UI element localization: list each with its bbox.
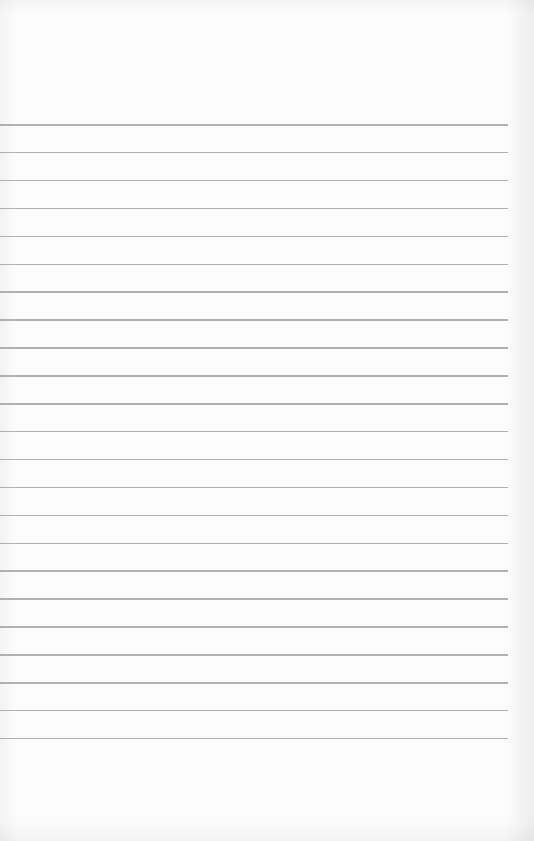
ruled-line bbox=[0, 264, 508, 266]
ruled-line bbox=[0, 431, 508, 433]
ruled-line bbox=[0, 403, 508, 405]
ruled-line bbox=[0, 236, 508, 238]
ruled-line bbox=[0, 710, 508, 712]
ruled-line bbox=[0, 459, 508, 461]
ruled-line bbox=[0, 598, 508, 600]
ruled-line bbox=[0, 682, 508, 684]
ruled-line bbox=[0, 319, 508, 321]
ruled-line bbox=[0, 570, 508, 572]
ruled-line bbox=[0, 543, 508, 545]
ruled-line bbox=[0, 375, 508, 377]
ruled-line bbox=[0, 626, 508, 628]
ruled-line bbox=[0, 487, 508, 489]
ruled-line bbox=[0, 515, 508, 517]
ruled-line bbox=[0, 654, 508, 656]
ruled-line bbox=[0, 291, 508, 293]
lined-paper-sheet bbox=[0, 0, 534, 841]
ruled-line bbox=[0, 347, 508, 349]
ruled-line bbox=[0, 208, 508, 210]
ruled-line bbox=[0, 152, 508, 154]
ruled-line bbox=[0, 180, 508, 182]
ruled-line bbox=[0, 738, 508, 740]
ruled-line bbox=[0, 124, 508, 126]
